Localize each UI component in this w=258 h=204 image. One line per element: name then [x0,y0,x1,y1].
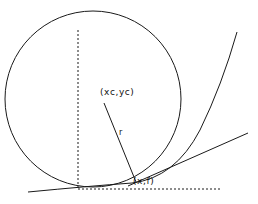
figure-canvas [0,0,258,204]
circle-shape [5,11,181,187]
center-point-label: (xc,yc) [100,88,134,97]
tangent-point-label: (x,f) [133,177,154,186]
function-curve [28,32,237,192]
radius-line [104,103,136,182]
geometry-figure: (xc,yc) (x,f) r [0,0,258,204]
radius-label: r [119,129,123,137]
